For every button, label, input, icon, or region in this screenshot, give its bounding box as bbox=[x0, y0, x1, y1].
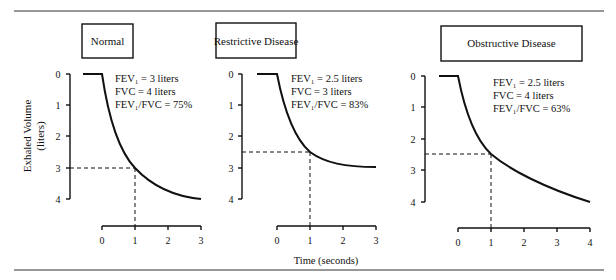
spirometry-figure: Exhaled Volume (liters) Normal 0 1 2 3 4 bbox=[0, 0, 616, 280]
panel-title: Normal bbox=[91, 35, 125, 47]
svg-text:2: 2 bbox=[341, 235, 346, 246]
panel-obstructive: Obstructive Disease 0 1 2 3 4 0 1 bbox=[411, 26, 593, 248]
panel-restrictive: Restrictive Disease 0 1 2 3 4 0 1 2 bbox=[214, 23, 379, 267]
y-axis bbox=[238, 74, 242, 199]
panel-title: Obstructive Disease bbox=[467, 37, 555, 49]
svg-text:2: 2 bbox=[522, 237, 527, 248]
svg-text:4: 4 bbox=[56, 194, 61, 205]
fev1-value: FEV₁ = 2.5 liters bbox=[493, 77, 564, 88]
fev1-guide-lines bbox=[70, 168, 135, 226]
y-axis-label-line2: (liters) bbox=[34, 121, 47, 151]
fvc-value: FVC = 4 liters bbox=[493, 90, 553, 101]
y-axis-label: Exhaled Volume (liters) bbox=[21, 100, 47, 173]
y-tick-labels: 0 1 2 3 4 bbox=[56, 69, 61, 205]
fev1-guide-lines bbox=[242, 152, 310, 226]
y-axis bbox=[66, 74, 70, 199]
y-tick-labels: 0 1 2 3 4 bbox=[411, 71, 416, 208]
fev1-value: FEV₁ = 3 liters bbox=[115, 73, 179, 84]
panel-normal: Normal 0 1 2 3 4 0 1 2 bbox=[56, 24, 204, 246]
svg-text:1: 1 bbox=[489, 237, 494, 248]
svg-text:0: 0 bbox=[456, 237, 461, 248]
svg-text:3: 3 bbox=[411, 165, 416, 176]
svg-text:1: 1 bbox=[133, 235, 138, 246]
svg-text:1: 1 bbox=[411, 102, 416, 113]
x-tick-labels: 0 1 2 3 4 bbox=[456, 237, 593, 248]
spirometry-values: FEV₁ = 2.5 liters FVC = 4 liters FEV₁/FV… bbox=[493, 77, 571, 114]
fev1-guide-lines bbox=[425, 154, 491, 228]
svg-text:1: 1 bbox=[229, 100, 234, 111]
svg-text:0: 0 bbox=[56, 69, 61, 80]
fev1-value: FEV₁ = 2.5 liters bbox=[291, 73, 362, 84]
panel-title: Restrictive Disease bbox=[214, 35, 299, 47]
fev1-fvc-ratio: FEV₁/FVC = 63% bbox=[493, 103, 571, 114]
svg-text:3: 3 bbox=[229, 163, 234, 174]
svg-text:3: 3 bbox=[56, 163, 61, 174]
svg-text:2: 2 bbox=[166, 235, 171, 246]
svg-text:2: 2 bbox=[229, 131, 234, 142]
x-axis bbox=[102, 226, 201, 230]
x-tick-labels: 0 1 2 3 bbox=[100, 235, 204, 246]
y-tick-labels: 0 1 2 3 4 bbox=[229, 69, 234, 205]
x-axis bbox=[277, 226, 376, 230]
svg-text:2: 2 bbox=[411, 134, 416, 145]
x-axis bbox=[458, 228, 590, 232]
svg-text:3: 3 bbox=[555, 237, 560, 248]
svg-text:0: 0 bbox=[100, 235, 105, 246]
svg-text:1: 1 bbox=[308, 235, 313, 246]
svg-text:0: 0 bbox=[229, 69, 234, 80]
svg-text:3: 3 bbox=[199, 235, 204, 246]
svg-text:0: 0 bbox=[411, 71, 416, 82]
svg-text:2: 2 bbox=[56, 131, 61, 142]
fev1-fvc-ratio: FEV₁/FVC = 75% bbox=[115, 99, 193, 110]
svg-text:0: 0 bbox=[275, 235, 280, 246]
fev1-fvc-ratio: FEV₁/FVC = 83% bbox=[291, 99, 369, 110]
svg-text:3: 3 bbox=[374, 235, 379, 246]
svg-text:4: 4 bbox=[588, 237, 593, 248]
fvc-value: FVC = 4 liters bbox=[115, 86, 175, 97]
x-tick-labels: 0 1 2 3 bbox=[275, 235, 379, 246]
svg-text:4: 4 bbox=[411, 197, 416, 208]
x-axis-label: Time (seconds) bbox=[294, 255, 359, 267]
svg-text:4: 4 bbox=[229, 194, 234, 205]
y-axis-label-line1: Exhaled Volume bbox=[21, 100, 33, 173]
spirometry-values: FEV₁ = 3 liters FVC = 4 liters FEV₁/FVC … bbox=[115, 73, 193, 110]
y-axis bbox=[421, 76, 425, 202]
spirometry-values: FEV₁ = 2.5 liters FVC = 3 liters FEV₁/FV… bbox=[291, 73, 369, 110]
svg-text:1: 1 bbox=[56, 100, 61, 111]
fvc-value: FVC = 3 liters bbox=[291, 86, 351, 97]
